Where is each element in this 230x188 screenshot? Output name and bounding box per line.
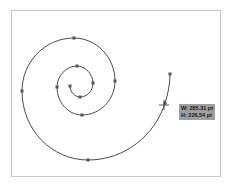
dimension-tooltip: W: 285.31 pt H: 226.54 pt bbox=[179, 104, 215, 120]
anchor-point[interactable] bbox=[92, 82, 95, 85]
anchor-point[interactable] bbox=[79, 96, 82, 99]
crosshair-cursor-icon bbox=[159, 100, 169, 110]
anchor-point[interactable] bbox=[69, 85, 72, 88]
spiral-path[interactable] bbox=[22, 38, 170, 160]
anchor-point[interactable] bbox=[76, 65, 79, 68]
anchor-point[interactable] bbox=[87, 159, 90, 162]
anchor-point[interactable] bbox=[56, 86, 59, 89]
anchor-point[interactable] bbox=[81, 114, 84, 117]
anchor-point[interactable] bbox=[21, 90, 24, 93]
anchor-point[interactable] bbox=[73, 37, 76, 40]
tooltip-height: H: 226.54 pt bbox=[181, 112, 213, 119]
spiral-path-canvas[interactable] bbox=[0, 0, 230, 188]
anchor-points bbox=[21, 37, 172, 162]
anchor-point[interactable] bbox=[114, 80, 117, 83]
anchor-point[interactable] bbox=[169, 73, 172, 76]
tooltip-width: W: 285.31 pt bbox=[181, 105, 213, 112]
